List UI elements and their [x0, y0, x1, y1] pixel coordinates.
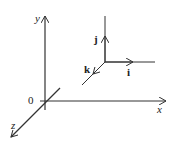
origin-label: 0 [28, 95, 34, 106]
j-label: j [94, 34, 98, 45]
z-axis [11, 88, 60, 137]
x-axis-label: x [157, 104, 162, 115]
i-label: i [127, 67, 130, 78]
k-label: k [84, 64, 90, 75]
y-axis-label: y [35, 13, 40, 24]
k-vector [93, 62, 105, 74]
z-axis-label: z [11, 120, 15, 131]
